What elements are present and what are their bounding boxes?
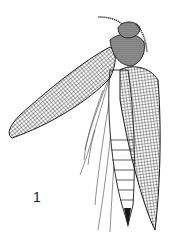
insect-illustration: 1 [0, 0, 175, 240]
figure-label: 1 [33, 190, 41, 204]
insect-drawing [0, 0, 175, 240]
left-elytron [9, 47, 115, 138]
